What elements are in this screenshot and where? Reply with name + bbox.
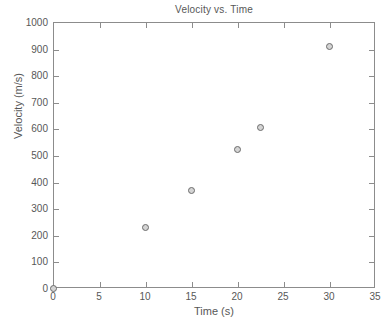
data-point-marker: [188, 187, 195, 194]
x-axis-label: Time (s): [53, 305, 375, 317]
x-tick-label: 30: [323, 291, 334, 302]
y-tick-label: 200: [31, 229, 48, 240]
y-tick-label: 500: [31, 150, 48, 161]
data-point-marker: [257, 124, 264, 131]
y-tick-label: 900: [31, 43, 48, 54]
x-tick-label: 15: [185, 291, 196, 302]
y-tick-label: 0: [42, 283, 48, 294]
chart-title: Velocity vs. Time: [53, 4, 375, 15]
data-point-marker: [50, 285, 57, 292]
data-point-marker: [142, 224, 149, 231]
y-tick-label: 400: [31, 176, 48, 187]
data-point-marker: [326, 43, 333, 50]
y-axis-label: Velocity (m/s): [12, 36, 24, 176]
x-tick-label: 5: [96, 291, 102, 302]
x-tick-label: 0: [50, 291, 56, 302]
y-tick-label: 100: [31, 256, 48, 267]
y-tick-label: 1000: [26, 17, 48, 28]
y-tick-label: 600: [31, 123, 48, 134]
x-tick-label: 20: [231, 291, 242, 302]
data-point-marker: [234, 146, 241, 153]
x-tick-label: 10: [139, 291, 150, 302]
chart-figure: Velocity vs. Time 0100200300400500600700…: [0, 0, 388, 324]
x-tick-label: 25: [277, 291, 288, 302]
y-tick-label: 700: [31, 96, 48, 107]
x-tick-label: 35: [369, 291, 380, 302]
y-axis-tick-labels: 01002003004005006007008009001000: [0, 22, 48, 288]
plot-area: [53, 22, 375, 288]
y-tick-label: 800: [31, 70, 48, 81]
y-tick-label: 300: [31, 203, 48, 214]
